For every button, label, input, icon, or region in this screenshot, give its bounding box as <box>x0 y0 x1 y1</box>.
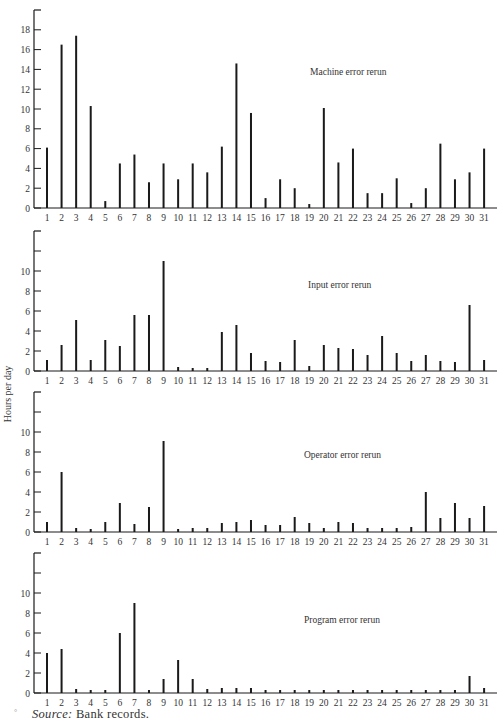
x-tick-label: 20 <box>319 537 329 547</box>
bar <box>308 690 310 693</box>
bar <box>425 690 427 693</box>
bar <box>206 172 208 208</box>
x-tick-label: 4 <box>88 376 93 386</box>
bar <box>439 144 441 208</box>
bar <box>104 201 106 208</box>
bar <box>177 179 179 208</box>
bar <box>425 492 427 532</box>
bar <box>367 528 369 532</box>
x-tick-label: 21 <box>334 376 344 386</box>
bar <box>425 355 427 371</box>
y-tick-label: 6 <box>25 629 30 639</box>
bar <box>221 688 223 693</box>
x-tick-label: 16 <box>261 698 271 708</box>
panel-title: Input error rerun <box>308 280 372 290</box>
bar <box>396 353 398 371</box>
x-tick-label: 31 <box>479 213 489 223</box>
y-tick-label: 10 <box>21 428 31 438</box>
x-tick-label: 21 <box>334 213 344 223</box>
x-tick-label: 9 <box>161 213 166 223</box>
bar <box>235 325 237 371</box>
y-tick-label: 16 <box>21 45 31 55</box>
bar <box>148 690 150 693</box>
y-tick-label: 8 <box>25 609 30 619</box>
x-tick-label: 29 <box>450 698 460 708</box>
x-tick-label: 23 <box>363 698 373 708</box>
x-tick-label: 5 <box>103 537 108 547</box>
y-tick-label: 2 <box>25 669 30 679</box>
bar <box>279 690 281 693</box>
bar <box>323 108 325 208</box>
y-tick-label: 18 <box>21 25 31 35</box>
x-tick-label: 29 <box>450 537 460 547</box>
x-tick-label: 23 <box>363 213 373 223</box>
x-tick-label: 25 <box>392 376 402 386</box>
bar <box>250 688 252 693</box>
x-tick-label: 19 <box>305 698 315 708</box>
x-tick-label: 8 <box>147 376 152 386</box>
chart-panel-operator-error-rerun: 0246810123456789101112131415161718192021… <box>21 392 498 547</box>
bar <box>235 522 237 532</box>
x-tick-label: 1 <box>45 213 50 223</box>
panel-title: Program error rerun <box>304 615 380 625</box>
bar <box>308 523 310 532</box>
bar <box>381 336 383 371</box>
bar <box>410 203 412 208</box>
x-tick-label: 15 <box>246 537 256 547</box>
y-tick-label: 0 <box>25 689 30 699</box>
y-axis-label: Hours per day <box>2 364 14 424</box>
x-tick-label: 1 <box>45 537 50 547</box>
bar <box>148 315 150 371</box>
y-tick-label: 4 <box>25 488 30 498</box>
x-tick-label: 25 <box>392 698 402 708</box>
bar <box>352 149 354 208</box>
x-tick-label: 10 <box>173 213 183 223</box>
bar <box>148 182 150 208</box>
x-tick-label: 21 <box>334 537 344 547</box>
bar <box>396 690 398 693</box>
x-tick-label: 18 <box>290 376 300 386</box>
x-tick-label: 11 <box>188 537 197 547</box>
x-tick-label: 5 <box>103 376 108 386</box>
x-tick-label: 29 <box>450 376 460 386</box>
x-tick-label: 22 <box>348 537 358 547</box>
bar <box>454 362 456 371</box>
x-tick-label: 18 <box>290 537 300 547</box>
y-tick-label: 4 <box>25 327 30 337</box>
x-tick-label: 23 <box>363 376 373 386</box>
x-tick-label: 27 <box>421 698 431 708</box>
x-tick-label: 22 <box>348 698 358 708</box>
bar <box>469 518 471 532</box>
bar <box>294 188 296 208</box>
x-tick-label: 11 <box>188 698 197 708</box>
bar <box>410 361 412 371</box>
x-tick-label: 14 <box>232 376 242 386</box>
bar <box>381 193 383 208</box>
bar <box>206 528 208 532</box>
x-tick-label: 31 <box>479 698 489 708</box>
x-tick-label: 17 <box>275 213 285 223</box>
x-tick-label: 26 <box>407 537 417 547</box>
bar <box>352 349 354 371</box>
x-tick-label: 3 <box>74 213 79 223</box>
x-tick-label: 16 <box>261 537 271 547</box>
bar <box>75 320 77 371</box>
y-tick-label: 2 <box>25 347 30 357</box>
bar <box>61 649 63 693</box>
y-tick-label: 4 <box>25 164 30 174</box>
x-tick-label: 24 <box>377 537 387 547</box>
x-tick-label: 1 <box>45 376 50 386</box>
bar <box>90 690 92 693</box>
x-tick-label: 6 <box>117 213 122 223</box>
x-tick-label: 16 <box>261 213 271 223</box>
bar <box>337 690 339 693</box>
x-tick-label: 12 <box>203 698 213 708</box>
bar <box>381 690 383 693</box>
x-tick-label: 15 <box>246 698 256 708</box>
bar <box>61 472 63 532</box>
x-tick-label: 27 <box>421 537 431 547</box>
bar <box>104 690 106 693</box>
bar <box>90 360 92 371</box>
bar <box>61 345 63 371</box>
bar <box>483 360 485 371</box>
